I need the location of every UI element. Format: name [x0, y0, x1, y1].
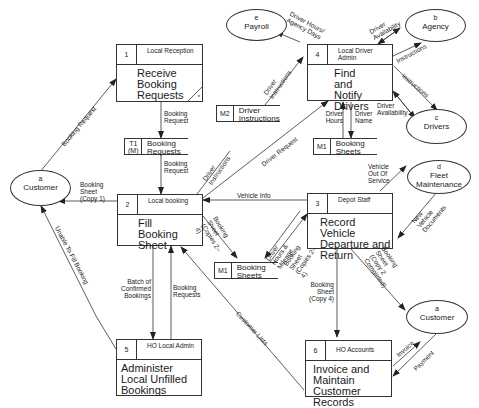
process-id: 6 — [306, 341, 326, 360]
entity-id: b — [406, 14, 465, 22]
entity-id: a — [407, 305, 467, 313]
corner-marker-icon — [188, 87, 202, 101]
entity-id: a — [11, 175, 70, 183]
store-label: Driver Instructions — [234, 106, 280, 121]
process-location: Local booking — [138, 195, 202, 214]
entity-label: Customer — [407, 313, 467, 322]
entity-payroll[interactable]: e Payroll — [226, 9, 287, 41]
entity-id: c — [407, 114, 466, 122]
entity-fleet-maintenance[interactable]: d Fleet Maintenance — [407, 160, 471, 194]
process-id: 2 — [118, 195, 138, 214]
process-location: HO Local Admin — [137, 340, 201, 359]
store-label: Booking Sheets — [232, 263, 278, 278]
process-1-receive-booking-requests[interactable]: 1Local Reception Receive Booking Request… — [116, 44, 203, 102]
process-id: 1 — [117, 45, 137, 64]
entity-agency[interactable]: b Agency — [405, 9, 466, 42]
entity-label: Drivers — [407, 122, 466, 131]
entity-label: Customer — [11, 183, 70, 192]
process-5-administer-unfilled[interactable]: 5HO Local Admin Administer Local Unfille… — [116, 339, 202, 396]
process-title: Invoice and Maintain Customer Records — [306, 361, 391, 408]
process-6-invoice-customer-records[interactable]: 6HO Accounts Invoice and Maintain Custom… — [305, 340, 392, 397]
store-label: Booking Sheets — [331, 139, 377, 154]
process-location: HO Accounts — [326, 341, 391, 360]
entity-label: Agency — [406, 22, 465, 31]
process-location: Local Reception — [137, 45, 202, 64]
entity-id: e — [227, 14, 286, 22]
flow-label-booking-request-1-t1: Booking Request — [164, 110, 194, 124]
flow-label-booking-sheet-copy4: Booking Sheet (Copy 4) — [308, 281, 334, 302]
flow-label-driver-name: Driver Name — [355, 110, 375, 124]
entity-drivers[interactable]: c Drivers — [406, 109, 467, 144]
store-id: T1 (M) — [125, 139, 142, 154]
process-id: 4 — [308, 45, 328, 64]
flow-label-booking-requests-5: Booking Requests — [173, 284, 203, 298]
process-3-record-vehicle[interactable]: 3Depot Staff Record Vehicle Departure an… — [307, 193, 393, 249]
process-id: 5 — [117, 340, 137, 359]
process-4-find-notify-drivers[interactable]: 4Local Driver Admin Find and Notify Driv… — [307, 44, 393, 101]
flow-label-vehicle-info: Vehicle Info — [237, 192, 271, 199]
store-m1-booking-sheets-lower[interactable]: M1 Booking Sheets — [214, 262, 278, 279]
flow-label-vehicle-out-of-service: Vehicle Out Of Service — [368, 163, 394, 184]
flow-label-booking-sheet-copy1: Booking Sheet (Copy 1) — [80, 181, 114, 202]
store-t1-booking-requests[interactable]: T1 (M) Booking Requests — [124, 138, 188, 155]
process-id: 3 — [308, 194, 328, 213]
entity-label: Fleet Maintenance — [408, 171, 470, 189]
store-id: M1 — [215, 263, 232, 278]
flow-label-driver-hours: Driver Hours — [325, 110, 343, 124]
process-title: Administer Local Unfilled Bookings — [117, 360, 201, 396]
process-title: Fill Booking Sheet — [118, 215, 202, 251]
entity-customer-2[interactable]: a Customer — [406, 300, 468, 334]
process-2-fill-booking-sheet[interactable]: 2Local booking Fill Booking Sheet — [117, 194, 203, 246]
process-location: Local Driver Admin — [328, 45, 392, 64]
flow-label-batch-confirmed: Batch of Confirmed Bookings — [117, 278, 151, 299]
store-m1-booking-sheets-upper[interactable]: M1 Booking Sheets — [313, 138, 377, 155]
entity-customer[interactable]: a Customer — [10, 170, 71, 206]
store-m2-driver-instructions[interactable]: M2 Driver Instructions — [216, 105, 280, 122]
entity-label: Payroll — [227, 22, 286, 31]
entity-id: d — [408, 163, 470, 171]
store-id: M2 — [217, 106, 234, 121]
process-location: Depot Staff — [328, 194, 392, 213]
flow-label-booking-request-t1-2: Booking Request — [164, 160, 194, 174]
store-label: Booking Requests — [142, 139, 188, 154]
flow-label-driver-availability-drivers: Driver Availability — [377, 102, 413, 116]
store-id: M1 — [314, 139, 331, 154]
